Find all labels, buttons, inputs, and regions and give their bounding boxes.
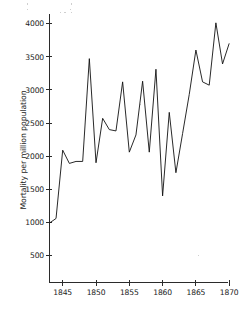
y-tick-label: 2500 bbox=[25, 119, 44, 128]
y-tick-label: 3500 bbox=[25, 53, 44, 62]
y-tick-500: 500 bbox=[30, 251, 52, 260]
x-tick-label: 1845 bbox=[53, 288, 72, 297]
y-tick-2000: 2000 bbox=[25, 152, 52, 161]
mortality-line-chart: 4000 3500 3000 2500 2000 1500 bbox=[0, 0, 240, 313]
y-tick-3500: 3500 bbox=[25, 53, 52, 62]
x-tick-label: 1850 bbox=[87, 288, 106, 297]
y-tick-1000: 1000 bbox=[25, 218, 52, 227]
mortality-series-line bbox=[49, 23, 229, 223]
y-axis-ticks: 4000 3500 3000 2500 2000 1500 bbox=[25, 19, 52, 260]
y-tick-4000: 4000 bbox=[25, 19, 52, 28]
y-tick-2500: 2500 bbox=[25, 119, 52, 128]
paper-specks bbox=[27, 3, 199, 256]
x-tick-label: 1860 bbox=[153, 288, 172, 297]
x-tick-label: 1855 bbox=[120, 288, 139, 297]
y-axis-title: Mortality per million population bbox=[19, 90, 28, 209]
chart-axes bbox=[50, 14, 229, 283]
y-tick-label: 4000 bbox=[25, 19, 44, 28]
x-tick-label: 1870 bbox=[220, 288, 239, 297]
y-tick-label: 1500 bbox=[25, 185, 44, 194]
y-tick-label: 3000 bbox=[25, 86, 44, 95]
x-tick-label: 1865 bbox=[187, 288, 206, 297]
y-tick-label: 2000 bbox=[25, 152, 44, 161]
chart-figure: 4000 3500 3000 2500 2000 1500 bbox=[0, 0, 240, 313]
y-tick-label: 500 bbox=[30, 251, 44, 260]
y-tick-1500: 1500 bbox=[25, 185, 52, 194]
y-tick-label: 1000 bbox=[25, 218, 44, 227]
y-tick-3000: 3000 bbox=[25, 86, 52, 95]
